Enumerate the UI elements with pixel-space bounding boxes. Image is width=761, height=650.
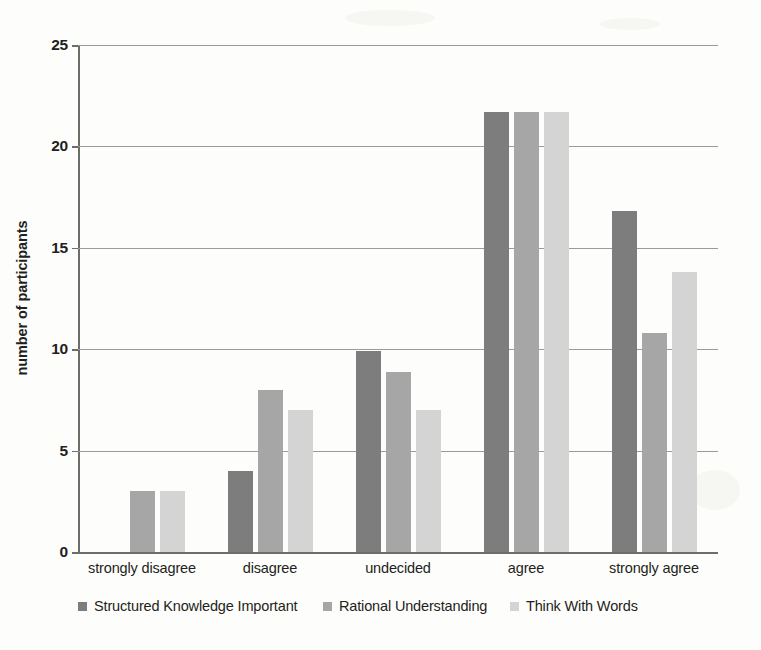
bar-group — [484, 45, 569, 552]
x-axis-category-labels: strongly disagreedisagreeundecidedagrees… — [78, 560, 718, 584]
bar — [484, 112, 509, 552]
y-tick-label-15: 15 — [28, 239, 68, 257]
bar — [258, 390, 283, 552]
bar — [130, 491, 155, 552]
bar — [228, 471, 253, 552]
y-axis-tick-labels: 0510152025 — [14, 0, 68, 650]
bar — [160, 491, 185, 552]
gridline-0 — [78, 552, 718, 554]
x-axis-label-agree: agree — [462, 560, 590, 576]
bar — [386, 372, 411, 552]
bar — [642, 333, 667, 552]
legend-item[interactable]: Think With Words — [510, 598, 638, 614]
bar — [672, 272, 697, 552]
chart-legend: Structured Knowledge ImportantRational U… — [78, 598, 718, 620]
scan-artifact — [345, 10, 435, 26]
bar-group — [356, 45, 441, 552]
legend-swatch-icon — [323, 602, 332, 611]
y-tick-label-10: 10 — [28, 340, 68, 358]
scan-artifact — [600, 18, 660, 30]
legend-item[interactable]: Structured Knowledge Important — [78, 598, 297, 614]
legend-swatch-icon — [510, 602, 519, 611]
bar — [612, 211, 637, 552]
bar — [356, 351, 381, 552]
y-tick-label-25: 25 — [28, 36, 68, 54]
bar — [544, 112, 569, 552]
plot-area — [78, 45, 718, 552]
legend-swatch-icon — [78, 602, 87, 611]
x-axis-label-strongly-disagree: strongly disagree — [78, 560, 206, 576]
x-axis-label-undecided: undecided — [334, 560, 462, 576]
bar-group — [100, 45, 185, 552]
bar-group — [228, 45, 313, 552]
x-axis-label-strongly-agree: strongly agree — [590, 560, 718, 576]
bar — [514, 112, 539, 552]
bar — [416, 410, 441, 552]
x-axis-label-disagree: disagree — [206, 560, 334, 576]
legend-label: Rational Understanding — [339, 598, 487, 614]
legend-label: Think With Words — [526, 598, 638, 614]
y-tick-label-0: 0 — [28, 543, 68, 561]
bar — [288, 410, 313, 552]
y-tick-label-5: 5 — [28, 442, 68, 460]
legend-item[interactable]: Rational Understanding — [323, 598, 487, 614]
bar-chart-figure: number of participants 0510152025 strong… — [0, 0, 761, 650]
y-tick-label-20: 20 — [28, 137, 68, 155]
legend-label: Structured Knowledge Important — [94, 598, 297, 614]
bar-group — [612, 45, 697, 552]
